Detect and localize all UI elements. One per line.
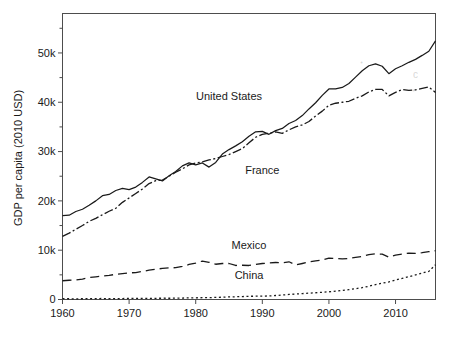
y-tick-label: 20k — [38, 195, 56, 207]
y-tick-label: 10k — [38, 244, 56, 256]
scan-smudge-2: c — [413, 69, 418, 80]
series-line-united-states — [63, 41, 436, 216]
x-axis-tick-labels: 196019701980199020002010 — [50, 307, 408, 319]
scan-smudge-1: ꞏ — [360, 57, 363, 68]
x-tick-label: 2000 — [317, 307, 341, 319]
series-label-united-states: United States — [196, 90, 263, 102]
plot-frame — [63, 14, 436, 300]
y-tick-label: 40k — [38, 96, 56, 108]
x-tick-label: 2010 — [383, 307, 407, 319]
x-tick-label: 1960 — [50, 307, 74, 319]
y-axis-tick-labels: 010k20k30k40k50k — [38, 47, 56, 306]
y-tick-label: 0 — [49, 293, 55, 305]
y-tick-label: 30k — [38, 145, 56, 157]
x-tick-label: 1970 — [117, 307, 141, 319]
series-label-china: China — [235, 269, 265, 281]
series-label-france: France — [245, 164, 279, 176]
gdp-per-capita-line-chart: GDP per capita (2010 USD) 010k20k30k40k5… — [0, 0, 456, 337]
x-axis-ticks — [63, 300, 396, 305]
x-tick-label: 1990 — [250, 307, 274, 319]
scan-smudge-3: ꞏ — [412, 85, 415, 96]
series-label-mexico: Mexico — [232, 239, 267, 251]
series-line-france — [63, 87, 436, 236]
chart-figure: GDP per capita (2010 USD) 010k20k30k40k5… — [0, 0, 456, 337]
y-axis-title: GDP per capita (2010 USD) — [12, 90, 24, 226]
x-tick-label: 1980 — [183, 307, 207, 319]
y-tick-label: 50k — [38, 47, 56, 59]
series-labels: United StatesFranceMexicoChina — [196, 90, 279, 281]
